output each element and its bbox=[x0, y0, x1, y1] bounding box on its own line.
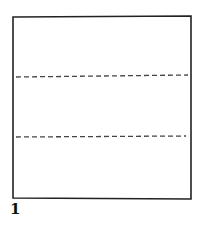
upper-fold-line bbox=[16, 75, 188, 77]
paper-square bbox=[13, 16, 191, 199]
folding-diagram bbox=[0, 0, 203, 225]
step-number: 1 bbox=[10, 200, 20, 218]
lower-fold-line bbox=[16, 136, 186, 137]
